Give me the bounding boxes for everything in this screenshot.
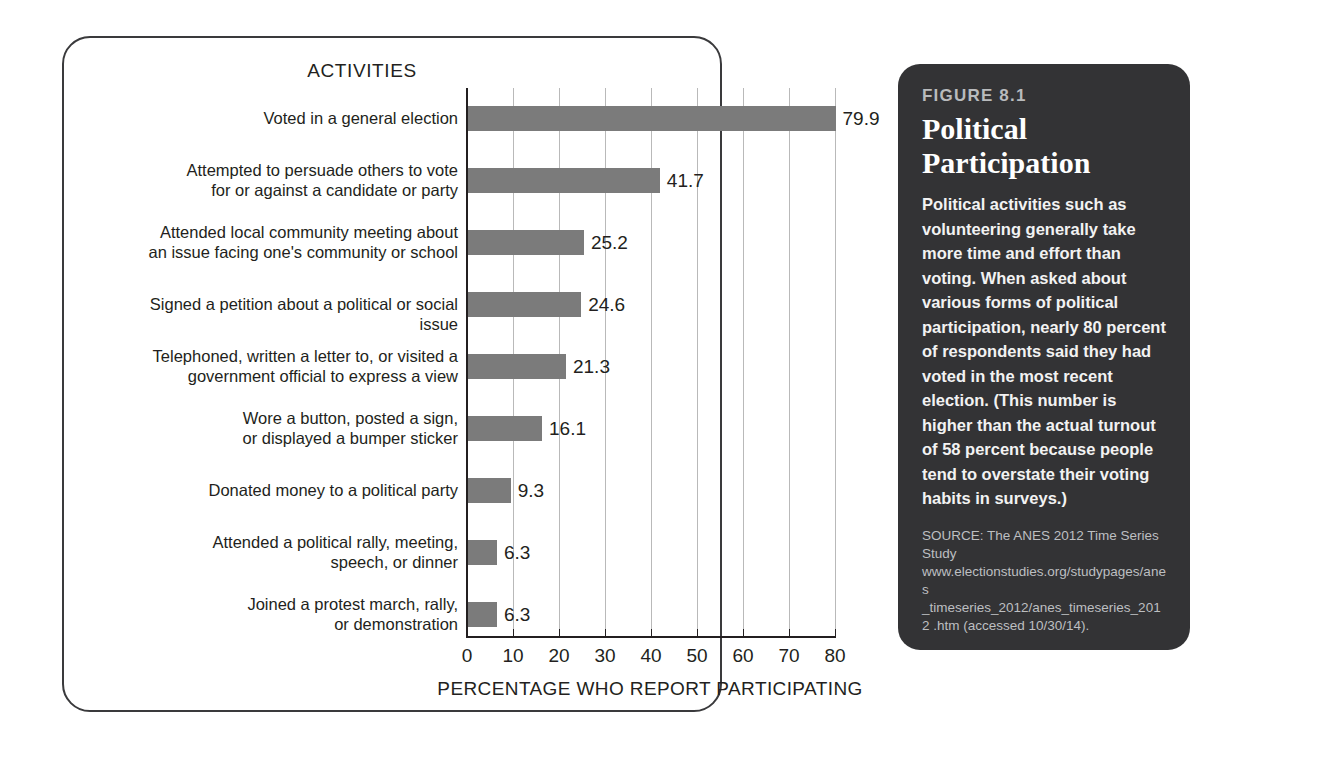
- figure-title-line-1: Political: [922, 112, 1168, 146]
- chart-card: [62, 36, 722, 712]
- gridline: [743, 88, 744, 637]
- figure-body-text: Political activities such as volunteerin…: [922, 192, 1168, 511]
- figure-title-line-2: Participation: [922, 146, 1168, 180]
- chart-title: ACTIVITIES: [62, 60, 722, 82]
- x-tick-label: 60: [723, 645, 763, 667]
- bar-value-label: 79.9: [843, 108, 880, 130]
- gridline: [789, 88, 790, 637]
- tick-mark: [835, 629, 836, 637]
- tick-mark: [789, 629, 790, 637]
- chart-title-text: ACTIVITIES: [307, 60, 416, 82]
- tick-mark: [743, 629, 744, 637]
- x-axis-title: PERCENTAGE WHO REPORT PARTICIPATING: [300, 678, 1000, 700]
- figure-number: FIGURE 8.1: [922, 86, 1168, 106]
- gridline: [835, 88, 836, 637]
- x-tick-label: 70: [769, 645, 809, 667]
- x-tick-label: 80: [815, 645, 855, 667]
- figure-caption-panel: FIGURE 8.1 Political Participation Polit…: [898, 64, 1190, 650]
- figure-source-citation: SOURCE: The ANES 2012 Time Series Study …: [922, 527, 1168, 635]
- figure-title: Political Participation: [922, 112, 1168, 180]
